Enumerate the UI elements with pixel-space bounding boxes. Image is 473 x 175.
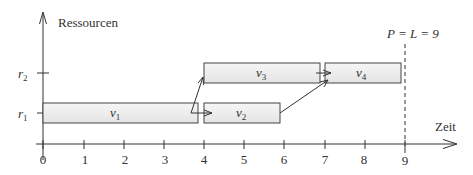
resource-r2-label: r2 [18, 66, 28, 83]
x-tick-label: 7 [322, 152, 329, 167]
arrow-v2-v4 [280, 80, 328, 113]
x-axis: Zeit 0 1 2 3 4 5 6 7 [36, 119, 457, 168]
x-tick-label: 5 [241, 152, 248, 167]
x-tick-label: 2 [122, 152, 129, 167]
x-tick-label: 9 [402, 153, 409, 168]
task-v3: v3 [204, 63, 320, 83]
task-v2: v2 [204, 103, 280, 123]
x-tick-label: 6 [281, 152, 288, 167]
x-axis-label: Zeit [435, 119, 456, 134]
task-v1: v1 [43, 103, 198, 123]
x-tick-label: 0 [40, 152, 47, 167]
deadline-label: P = L = 9 [386, 26, 439, 41]
task-v4: v4 [325, 63, 401, 83]
y-axis: Ressourcen r2 r1 [18, 12, 118, 160]
diagram-canvas: Ressourcen r2 r1 Zeit [0, 0, 473, 175]
schedule-diagram: Ressourcen r2 r1 Zeit [0, 0, 473, 175]
resource-r1-label: r1 [18, 106, 28, 123]
x-tick-label: 4 [201, 152, 208, 167]
x-tick-label: 1 [82, 152, 89, 167]
x-tick-label: 3 [162, 152, 169, 167]
deadline-marker: P = L = 9 [386, 26, 439, 155]
x-tick-label: 8 [361, 152, 368, 167]
y-axis-label: Ressourcen [58, 15, 118, 30]
x-tick-labels: 0 1 2 3 4 5 6 7 8 9 [40, 152, 409, 168]
